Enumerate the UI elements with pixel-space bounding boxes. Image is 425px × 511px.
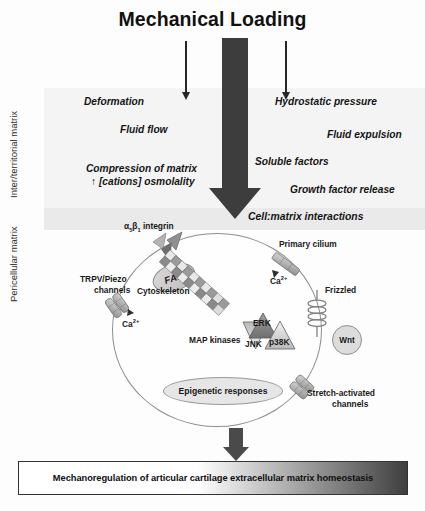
cytoskeleton-label: Cytoskeleton [137, 286, 190, 297]
trpv-piezo-channel-icon [104, 292, 130, 319]
outcome-banner: Mechanoregulation of articular cartilage… [18, 461, 408, 495]
outcome-arrow-head [223, 447, 249, 461]
p38k-label: p38K [269, 337, 289, 348]
calcium-label-left: Ca2+ [122, 316, 139, 329]
integrin-label: α5β1 integrin [124, 221, 174, 235]
figure-canvas: Mechanical Loading Inter/territorial mat… [0, 0, 425, 511]
map-kinases-label: MAP kinases [189, 335, 241, 346]
erk-label: ERK [253, 318, 271, 329]
primary-cilium-label: Primary cilium [279, 239, 337, 250]
diagram-vector-overlay [0, 0, 425, 511]
frizzled-receptor-icon [308, 290, 326, 337]
frizzled-label: Frizzled [325, 285, 356, 296]
stretch-channels-label-line1: Stretch-activated [307, 388, 375, 399]
trpv-channels-label-line2: channels [94, 285, 130, 296]
stretch-channels-label-line2: channels [332, 399, 368, 410]
calcium-influx-arrow-left [127, 309, 134, 316]
cytoskeleton-filament [159, 250, 229, 315]
outcome-banner-label: Mechanoregulation of articular cartilage… [53, 473, 373, 483]
outcome-arrow-shaft [229, 428, 243, 448]
jnk-label: JNK [245, 339, 262, 350]
calcium-label-cilium: Ca2+ [270, 273, 287, 286]
trpv-channels-label-line1: TRPV/Piezo [80, 274, 127, 285]
outcome-arrow [229, 428, 243, 460]
